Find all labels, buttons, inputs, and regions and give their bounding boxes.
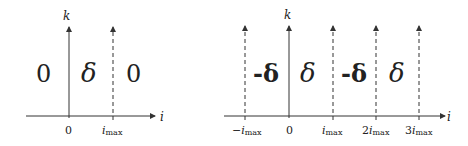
right-tick-imax: imax [322, 124, 343, 137]
left-tick-imax: imax [102, 124, 123, 137]
left-i-label: i [160, 110, 164, 124]
right-tick-neg-imax: −imax [232, 124, 262, 137]
right-region-2: δ [300, 58, 316, 88]
right-region-3: -δ [341, 59, 367, 88]
right-k-label: k [284, 8, 291, 22]
left-k-label: k [63, 9, 70, 23]
left-tick-0: 0 [65, 124, 72, 137]
right-tick-3imax: 3imax [405, 124, 433, 137]
right-tick-0: 0 [286, 124, 293, 137]
right-i-label: i [447, 110, 451, 124]
right-region-1: -δ [253, 59, 279, 88]
left-region-1: 0 [36, 60, 51, 88]
figure: k i 0 δ 0 0 imax k i -δ δ -δ δ −imax 0 i… [0, 0, 468, 146]
left-region-3: 0 [126, 60, 141, 88]
right-diagram: k i -δ δ -δ δ −imax 0 imax 2imax 3imax [224, 8, 451, 137]
right-region-4: δ [389, 58, 405, 88]
right-tick-2imax: 2imax [362, 124, 390, 137]
left-region-2: δ [81, 58, 97, 88]
left-diagram: k i 0 δ 0 0 imax [26, 9, 164, 137]
